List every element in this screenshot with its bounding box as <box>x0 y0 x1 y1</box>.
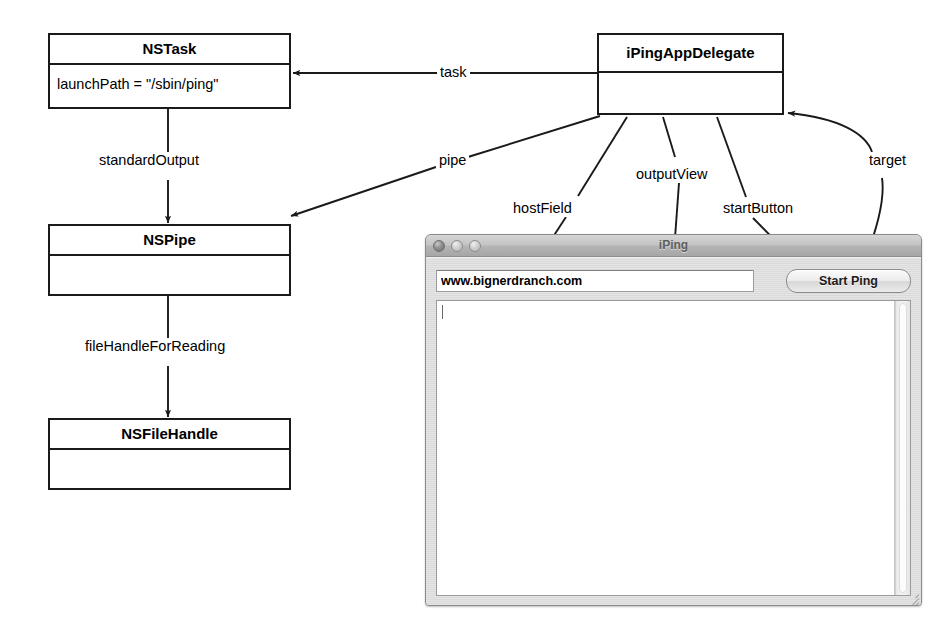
window-title: iPing <box>426 235 921 257</box>
uml-box-nsfilehandle-title: NSFileHandle <box>50 420 289 450</box>
uml-box-iping-app-delegate-attribute <box>599 73 782 113</box>
edge-label-pipe: pipe <box>436 152 469 169</box>
edge-label-output-view: outputView <box>633 166 710 183</box>
diagram-canvas: NSTask launchPath = "/sbin/ping" NSPipe … <box>0 0 940 633</box>
uml-box-iping-app-delegate-title: iPingAppDelegate <box>599 35 782 73</box>
output-text-view[interactable] <box>437 301 895 595</box>
uml-box-nsfilehandle-attribute <box>50 450 289 490</box>
host-field-input[interactable] <box>436 270 754 292</box>
uml-box-nstask-title: NSTask <box>50 35 289 65</box>
controls-row: Start Ping <box>436 270 911 292</box>
edge-label-file-handle-for-reading: fileHandleForReading <box>82 338 228 355</box>
window-content: Start Ping <box>426 257 921 606</box>
vertical-scrollbar[interactable] <box>895 301 910 595</box>
resize-grip-icon[interactable] <box>905 590 919 604</box>
start-ping-button[interactable]: Start Ping <box>786 269 911 293</box>
edge-label-task: task <box>437 64 470 81</box>
edge-label-host-field: hostField <box>510 200 575 217</box>
edge-label-start-button: startButton <box>720 200 796 217</box>
window-title-bar[interactable]: iPing <box>426 235 921 257</box>
uml-box-iping-app-delegate: iPingAppDelegate <box>597 33 784 115</box>
edge-label-standard-output: standardOutput <box>96 152 202 169</box>
uml-box-nstask: NSTask launchPath = "/sbin/ping" <box>48 33 291 109</box>
uml-box-nspipe-attribute <box>50 256 289 296</box>
uml-box-nsfilehandle: NSFileHandle <box>48 418 291 490</box>
edge-label-target: target <box>866 152 909 169</box>
iping-app-window: iPing Start Ping <box>425 234 922 606</box>
uml-box-nspipe: NSPipe <box>48 224 291 296</box>
uml-box-nspipe-title: NSPipe <box>50 226 289 256</box>
uml-box-nstask-attribute: launchPath = "/sbin/ping" <box>50 65 289 105</box>
text-caret <box>442 305 443 319</box>
output-scroll-view <box>436 300 911 596</box>
vertical-scrollbar-track[interactable] <box>899 303 907 593</box>
